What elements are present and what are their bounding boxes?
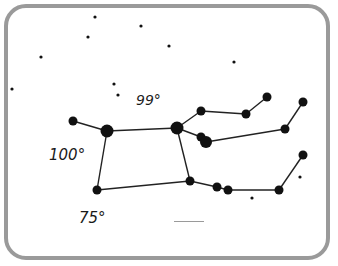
angle-label-99: 99° (136, 92, 161, 108)
background-star-icon (298, 175, 301, 178)
background-star-icon (10, 87, 13, 90)
star-icon (263, 93, 272, 102)
background-star-icon (167, 44, 170, 47)
star-icon (299, 151, 308, 160)
star-icon (171, 122, 184, 135)
constellation-line (107, 128, 177, 131)
star-icon (69, 117, 78, 126)
constellation-diagram (0, 0, 338, 266)
star-icon (275, 186, 284, 195)
background-star-icon (139, 24, 142, 27)
star-icon (281, 125, 290, 134)
answer-blank-line[interactable] (174, 221, 204, 222)
star-icon (224, 186, 233, 195)
star-icon (197, 107, 206, 116)
star-icon (299, 98, 308, 107)
constellation-line (285, 102, 303, 129)
background-star-icon (116, 93, 119, 96)
background-star-icon (232, 60, 235, 63)
angle-label-75: 75° (79, 209, 106, 227)
constellation-line (201, 111, 246, 114)
background-star-icon (93, 15, 96, 18)
constellation-line (97, 131, 107, 190)
constellation-line (206, 129, 285, 142)
angle-label-100: 100° (49, 146, 85, 164)
background-star-icon (250, 196, 253, 199)
star-icon (101, 125, 114, 138)
constellation-line (279, 155, 303, 190)
star-icon (213, 183, 222, 192)
star-icon (93, 186, 102, 195)
star-icon (242, 110, 251, 119)
constellation-line (177, 128, 190, 181)
constellation-lines (73, 97, 303, 190)
constellation-line (97, 181, 190, 190)
star-icon (186, 177, 195, 186)
background-star-icon (86, 35, 89, 38)
background-star-icon (39, 55, 42, 58)
star-icon (200, 136, 212, 148)
background-star-icon (112, 82, 115, 85)
